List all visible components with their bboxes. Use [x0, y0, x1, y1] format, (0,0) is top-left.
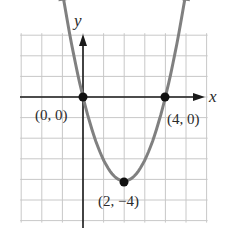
- y-axis: [79, 34, 87, 228]
- label-x-intercept: (4, 0): [167, 111, 200, 128]
- point-vertex: [120, 178, 129, 187]
- point-x-intercept: [161, 93, 170, 102]
- y-axis-label: y: [72, 11, 82, 30]
- x-axis-arrow-icon: [193, 93, 205, 101]
- label-vertex: (2, −4): [98, 193, 139, 210]
- point-origin: [79, 93, 88, 102]
- x-axis: [20, 93, 205, 101]
- y-axis-arrow-icon: [79, 34, 87, 46]
- x-axis-label: x: [208, 87, 217, 106]
- parabola-graph: y x (0, 0) (4, 0) (2, −4): [0, 0, 234, 234]
- label-origin: (0, 0): [35, 107, 68, 124]
